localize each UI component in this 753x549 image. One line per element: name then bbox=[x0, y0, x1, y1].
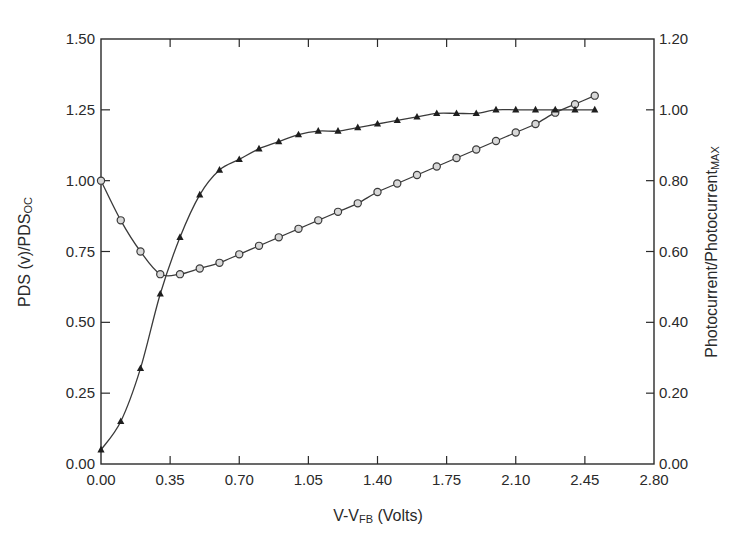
x-tick-label: 1.40 bbox=[363, 471, 392, 488]
triangle-marker bbox=[176, 233, 183, 240]
y-left-tick-label: 1.25 bbox=[66, 101, 95, 118]
circle-marker bbox=[295, 225, 302, 232]
circle-marker bbox=[255, 242, 262, 249]
triangle-marker bbox=[453, 109, 460, 116]
x-tick-label: 2.80 bbox=[639, 471, 668, 488]
series-line bbox=[101, 110, 595, 450]
circle-marker bbox=[591, 92, 598, 99]
circle-marker bbox=[236, 251, 243, 258]
circle-marker bbox=[354, 200, 361, 207]
circle-marker bbox=[473, 146, 480, 153]
circle-marker bbox=[433, 163, 440, 170]
x-tick-label: 0.70 bbox=[225, 471, 254, 488]
triangle-marker bbox=[532, 106, 539, 113]
x-tick-label: 0.00 bbox=[86, 471, 115, 488]
circle-marker bbox=[492, 137, 499, 144]
chart: 0.000.350.701.051.401.752.102.452.800.00… bbox=[0, 0, 753, 549]
circle-marker bbox=[334, 208, 341, 215]
circle-marker bbox=[216, 259, 223, 266]
y-right-tick-label: 0.80 bbox=[659, 172, 688, 189]
y-left-tick-label: 1.50 bbox=[66, 30, 95, 47]
circle-marker bbox=[157, 271, 164, 278]
y-left-tick-label: 0.50 bbox=[66, 313, 95, 330]
circle-marker bbox=[512, 129, 519, 136]
circle-marker bbox=[176, 271, 183, 278]
y-right-tick-label: 0.60 bbox=[659, 243, 688, 260]
x-tick-label: 1.05 bbox=[294, 471, 323, 488]
circle-marker bbox=[315, 217, 322, 224]
x-tick-label: 2.10 bbox=[501, 471, 530, 488]
x-tick-label: 0.35 bbox=[156, 471, 185, 488]
y-right-tick-label: 1.00 bbox=[659, 101, 688, 118]
circle-marker bbox=[413, 171, 420, 178]
circle-marker bbox=[374, 188, 381, 195]
y-right-tick-label: 1.20 bbox=[659, 30, 688, 47]
x-axis-title: V-VFB (Volts) bbox=[333, 507, 423, 525]
triangle-marker bbox=[157, 290, 164, 297]
circle-marker bbox=[117, 217, 124, 224]
y-left-tick-label: 0.75 bbox=[66, 243, 95, 260]
plot-area: 0.000.350.701.051.401.752.102.452.800.00… bbox=[0, 0, 753, 549]
y-left-tick-label: 1.00 bbox=[66, 172, 95, 189]
y-right-tick-label: 0.00 bbox=[659, 455, 688, 472]
y-left-tick-label: 0.25 bbox=[66, 384, 95, 401]
circle-marker bbox=[275, 234, 282, 241]
x-tick-label: 2.45 bbox=[570, 471, 599, 488]
y-right-tick-label: 0.20 bbox=[659, 384, 688, 401]
y-axis-right-title: Photocurrent/PhotocurrentMAX bbox=[703, 146, 721, 358]
data-series bbox=[97, 92, 598, 452]
circle-marker bbox=[532, 120, 539, 127]
triangle-marker bbox=[591, 106, 598, 113]
triangle-marker bbox=[216, 166, 223, 173]
y-left-tick-label: 0.00 bbox=[66, 455, 95, 472]
y-axis-left-title: PDS (v)/PDSOC bbox=[16, 197, 34, 307]
triangle-marker bbox=[117, 418, 124, 425]
triangle-marker bbox=[137, 364, 144, 371]
triangle-marker bbox=[552, 106, 559, 113]
circle-marker bbox=[137, 248, 144, 255]
circle-marker bbox=[97, 177, 104, 184]
circle-marker bbox=[394, 180, 401, 187]
triangle-marker bbox=[512, 106, 519, 113]
y-right-tick-label: 0.40 bbox=[659, 313, 688, 330]
x-tick-label: 1.75 bbox=[432, 471, 461, 488]
circle-marker bbox=[453, 154, 460, 161]
circle-marker bbox=[196, 265, 203, 272]
